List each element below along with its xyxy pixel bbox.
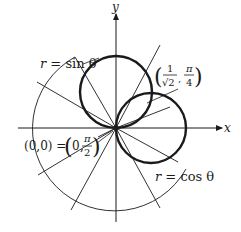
intersection-label: ( 1 √2 , π 4 ) xyxy=(154,63,203,89)
origin-label: (0,0) = ( 0 , π 2 ) xyxy=(24,133,101,159)
svg-text:1: 1 xyxy=(167,63,173,74)
sine-label: r = sin θ xyxy=(40,56,97,71)
svg-text:0: 0 xyxy=(72,139,80,153)
x-axis-label: x xyxy=(224,121,231,135)
svg-text:r = cos θ: r = cos θ xyxy=(155,169,214,184)
origin-point xyxy=(114,126,119,131)
svg-text:r = sin θ: r = sin θ xyxy=(40,56,97,71)
polar-diagram: y x r = sin θ r = cos θ ( 1 √2 , π 4 ) (… xyxy=(0,0,241,232)
svg-text:4: 4 xyxy=(186,77,192,88)
svg-text:2: 2 xyxy=(84,147,90,158)
svg-text:π: π xyxy=(83,133,91,144)
cosine-label: r = cos θ xyxy=(155,169,214,184)
svg-text:√2: √2 xyxy=(162,77,175,88)
svg-text:(0,0) =: (0,0) = xyxy=(24,139,66,153)
y-axis-label: y xyxy=(111,0,119,14)
svg-text:): ) xyxy=(194,64,203,89)
svg-text:π: π xyxy=(185,63,193,74)
svg-text:,: , xyxy=(178,73,181,84)
svg-text:): ) xyxy=(92,134,101,159)
